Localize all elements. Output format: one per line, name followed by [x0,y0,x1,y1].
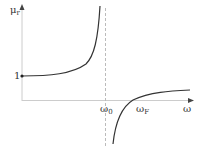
omega-f-label: ωF [136,104,149,116]
x-axis-label: ω [183,104,191,114]
chart-canvas [0,0,199,158]
curve-below-resonance [22,6,100,76]
curve-above-resonance [113,90,190,144]
y-tick-label-1: 1 [14,71,20,81]
y-axis-label: μr [10,5,20,17]
omega-0-label: ω0 [100,104,113,116]
start-point [20,74,23,77]
y-axis-arrow-icon [20,4,25,10]
